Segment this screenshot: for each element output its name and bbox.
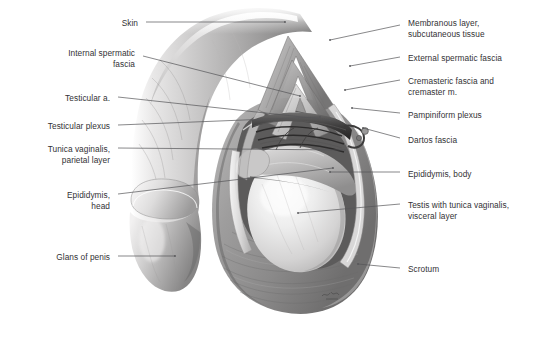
label-dartos-fascia: Dartos fascia (408, 135, 457, 146)
label-layer: SkinInternal spermatic fasciaTesticular … (0, 0, 544, 338)
label-scrotum: Scrotum (408, 264, 439, 275)
label-pampiniform-plexus: Pampiniform plexus (408, 110, 482, 121)
label-skin: Skin (122, 18, 138, 29)
label-glans-of-penis: Glans of penis (56, 252, 110, 263)
label-testicular-artery: Testicular a. (65, 93, 110, 104)
label-testicular-plexus: Testicular plexus (48, 121, 110, 132)
label-cremasteric-fascia: Cremasteric fascia and cremaster m. (408, 76, 494, 97)
label-internal-spermatic-fascia: Internal spermatic fascia (68, 48, 135, 69)
label-external-spermatic-fascia: External spermatic fascia (408, 53, 502, 64)
label-testis-tunica-vaginalis-visceral: Testis with tunica vaginalis, visceral l… (408, 200, 509, 221)
label-membranous-layer: Membranous layer, subcutaneous tissue (408, 18, 485, 39)
label-epididymis-body: Epididymis, body (408, 169, 472, 180)
label-tunica-vaginalis-parietal: Tunica vaginalis, parietal layer (48, 144, 110, 165)
anatomical-illustration: SkinInternal spermatic fasciaTesticular … (0, 0, 544, 338)
label-epididymis-head: Epididymis, head (67, 190, 110, 211)
